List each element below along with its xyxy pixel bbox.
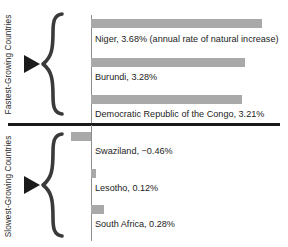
bar-swaziland [71, 132, 91, 141]
bar-niger [91, 19, 262, 28]
bar-label-south-africa: South Africa, 0.28% [95, 220, 175, 229]
bar-label-burundi: Burundi, 3.28% [95, 73, 157, 82]
population-growth-bar-chart: Fastest-Growing Countries Slowest-Growin… [0, 0, 288, 247]
bar-south-africa [91, 205, 104, 214]
bar-label-lesotho: Lesotho, 0.12% [95, 184, 158, 193]
bar-lesotho [91, 169, 96, 178]
bar-label-democratic-republic-of-the-congo: Democratic Republic of the Congo, 3.21% [95, 110, 264, 119]
bar-democratic-republic-of-the-congo [91, 95, 242, 104]
zero-axis-fastest [91, 15, 92, 123]
bar-label-swaziland: Swaziland, −0.46% [95, 147, 173, 156]
panel-fastest-growing: Niger, 3.68% (annual rate of natural inc… [0, 0, 288, 124]
bar-label-niger: Niger, 3.68% (annual rate of natural inc… [95, 35, 279, 44]
zero-axis-slowest [91, 125, 92, 241]
panel-slowest-growing: Swaziland, −0.46% Lesotho, 0.12% South A… [0, 125, 288, 247]
bar-burundi [91, 58, 245, 67]
